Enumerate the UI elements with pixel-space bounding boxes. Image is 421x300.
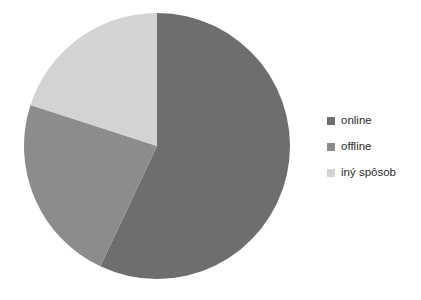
legend-item-offline[interactable]: offline [327, 140, 419, 153]
legend-label-online: online [341, 114, 372, 127]
legend-label-iny-sposob: iný spôsob [341, 166, 396, 179]
legend-swatch-online [327, 117, 335, 125]
chart-legend: online offline iný spôsob [327, 114, 419, 179]
legend-item-online[interactable]: online [327, 114, 419, 127]
legend-swatch-iny-sposob [327, 169, 335, 177]
pie-chart-figure: online offline iný spôsob [0, 0, 421, 300]
legend-item-iny-sposob[interactable]: iný spôsob [327, 166, 419, 179]
pie-slice-group [24, 13, 290, 279]
legend-label-offline: offline [341, 140, 371, 153]
legend-swatch-offline [327, 143, 335, 151]
